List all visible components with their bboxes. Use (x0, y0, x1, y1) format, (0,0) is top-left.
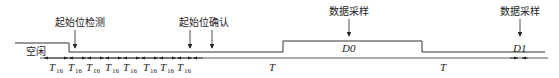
sub-period-labels: T16 T16 T16 T16 T16 T16 T16 T16 (49, 61, 192, 75)
start-detect-label: 起始位检测 (55, 16, 105, 28)
svg-text:16: 16 (130, 67, 138, 75)
bit-label-d0: D0 (341, 42, 356, 54)
svg-text:T: T (143, 61, 150, 73)
svg-text:T: T (123, 61, 130, 73)
period-label-2: T (440, 61, 447, 73)
svg-text:T: T (86, 61, 93, 73)
svg-text:T: T (49, 61, 56, 73)
svg-text:16: 16 (167, 67, 175, 75)
svg-text:16: 16 (75, 67, 83, 75)
svg-text:T: T (177, 61, 184, 73)
svg-text:T: T (68, 61, 75, 73)
data-sample-label-0: 数据采样 (329, 5, 369, 17)
bit-label-d1: D1 (512, 42, 526, 54)
svg-text:16: 16 (184, 67, 192, 75)
signal-waveform (15, 41, 545, 52)
start-confirm-label: 起始位确认 (179, 16, 229, 28)
svg-text:16: 16 (93, 67, 101, 75)
svg-text:16: 16 (112, 67, 120, 75)
idle-label: 空闲 (26, 45, 46, 57)
uart-timing-diagram: 空闲 起始位检测 起始位确认 数据采样 数据采样 D0 D1 T16 T16 T… (0, 0, 559, 78)
svg-text:T: T (105, 61, 112, 73)
data-sample-label-1: 数据采样 (500, 5, 540, 17)
svg-text:T: T (160, 61, 167, 73)
svg-text:16: 16 (56, 67, 64, 75)
period-label-1: T (269, 61, 276, 73)
svg-text:16: 16 (150, 67, 158, 75)
